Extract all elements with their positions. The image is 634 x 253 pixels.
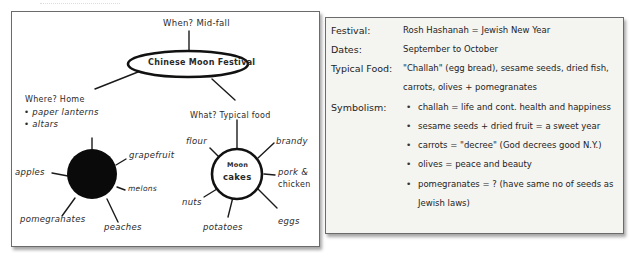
where-label: Where? Home [25, 95, 85, 104]
food-eggs: eggs [278, 216, 300, 226]
mind-map-panel: When? Mid-fall Chinese Moon Festival Whe… [11, 11, 320, 247]
symbolism-item: sesame seeds + dried fruit = a sweet yea… [418, 121, 600, 131]
mooncake-center-1: Moon [227, 161, 248, 169]
what-label: What? Typical food [190, 111, 271, 120]
bullet-icon: • [406, 159, 411, 169]
fruit-peaches: peaches [104, 222, 142, 232]
where-bullet-1: • paper lanterns [24, 107, 99, 117]
festival-label: Festival: [331, 25, 370, 36]
fruit-pomegranates: pomegranates [20, 214, 85, 224]
food-pork: pork & [278, 167, 308, 177]
fruit-grapefruit: grapefruit [129, 150, 174, 160]
bullet-icon: • [406, 140, 411, 150]
bullet-icon: • [406, 102, 411, 112]
bullet-text: paper lanterns [32, 107, 98, 117]
fruit-node-circle [67, 149, 117, 199]
food-potatoes: potatoes [203, 222, 243, 232]
dates-value: September to October [403, 44, 498, 54]
fruit-apples: apples [15, 167, 45, 177]
food-flour: flour [186, 136, 207, 146]
food-chicken: chicken [278, 180, 311, 189]
central-topic: Chinese Moon Festival [148, 58, 255, 67]
dates-label: Dates: [331, 44, 362, 55]
symbolism-label: Symbolism: [331, 102, 386, 113]
symbolism-item: pomegranates = ? (have same no of seeds … [418, 179, 614, 189]
bullet-icon: • [406, 121, 411, 131]
bullet-icon: • [406, 179, 411, 189]
mind-map-lines [12, 12, 319, 246]
mooncake-center-2: cakes [223, 172, 252, 182]
food-nuts: nuts [182, 197, 202, 207]
symbolism-item: carrots = "decree" (God decrees good N.Y… [418, 140, 601, 150]
info-card-panel: Festival: Rosh Hashanah = Jewish New Yea… [325, 17, 624, 234]
where-bullet-2: • altars [24, 119, 58, 129]
festival-value: Rosh Hashanah = Jewish New Year [403, 25, 550, 35]
symbolism-item: olives = peace and beauty [418, 159, 532, 169]
bullet-text: altars [32, 119, 58, 129]
cropped-text-fragment [40, 0, 120, 4]
symbolism-item: challah = life and cont. health and happ… [418, 102, 611, 112]
food-label: Typical Food: [331, 63, 392, 74]
food-value-2: carrots, olives + pomegranates [403, 82, 537, 92]
symbolism-continuation: Jewish laws) [418, 198, 470, 208]
when-label: When? Mid-fall [163, 18, 230, 28]
food-value-1: "Challah" (egg bread), sesame seeds, dri… [403, 63, 609, 73]
food-brandy: brandy [276, 136, 308, 146]
fruit-melons: melons [128, 184, 157, 193]
